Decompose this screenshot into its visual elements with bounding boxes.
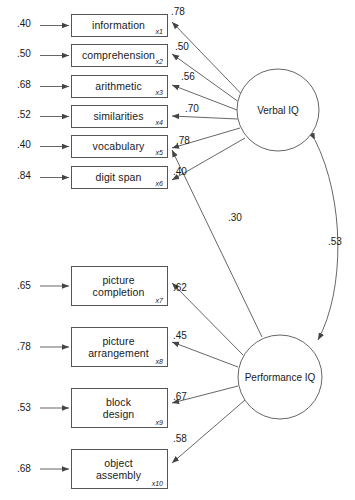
indicator-label-x5: vocabulary <box>93 140 147 153</box>
indicator-box-x3: arithmetic x3 <box>71 75 168 98</box>
indicator-box-x5: vocabulary x5 <box>71 135 168 158</box>
error-value-x6: .84 <box>17 170 31 181</box>
indicator-code-x7: x7 <box>156 297 163 304</box>
loading-value-x2: .50 <box>175 41 189 52</box>
error-value-x9: .53 <box>17 402 31 413</box>
loading-path-x7 <box>172 283 243 355</box>
loading-path-x3 <box>172 85 237 110</box>
indicator-label-x8-line2: arrangement <box>88 347 149 359</box>
loading-value-x10: .58 <box>173 433 187 444</box>
paths-layer <box>0 0 355 500</box>
indicator-label-x9-line2: design <box>103 408 135 420</box>
indicator-box-x1: information x1 <box>71 14 168 37</box>
loading-value-x4: .70 <box>185 103 199 114</box>
indicator-label-x3: arithmetic <box>95 80 144 93</box>
indicator-box-x9: block design x9 <box>71 388 168 428</box>
indicator-label-x1: information <box>92 19 147 32</box>
error-value-x7: .65 <box>17 280 31 291</box>
indicator-code-x5: x5 <box>156 149 163 156</box>
indicator-box-x8: picture arrangement x8 <box>71 327 168 367</box>
indicator-label-x7-line1: picture <box>102 274 134 286</box>
loading-value-x5: .78 <box>176 135 190 146</box>
indicator-label-x4: similarities <box>93 110 145 123</box>
indicator-label-x8: picture arrangement <box>88 335 151 360</box>
indicator-code-x9: x9 <box>156 419 163 426</box>
indicator-code-x8: x8 <box>156 358 163 365</box>
indicator-label-x9: block design <box>103 396 137 421</box>
indicator-label-x2: comprehension <box>82 49 157 62</box>
error-value-x10: .68 <box>17 463 31 474</box>
loading-value-x9: .67 <box>173 391 187 402</box>
indicator-label-x9-line1: block <box>106 396 131 408</box>
loading-value-x3: .56 <box>181 71 195 82</box>
indicator-code-x10: x10 <box>152 480 163 487</box>
indicator-code-x1: x1 <box>156 28 163 35</box>
indicator-label-x6: digit span <box>96 171 144 184</box>
indicator-label-x10-line1: object <box>104 457 133 469</box>
sem-path-diagram: Verbal IQ Performance IQ information x1 … <box>0 0 355 500</box>
factor-label-verbal: Verbal IQ <box>257 105 299 116</box>
error-value-x2: .50 <box>17 48 31 59</box>
loading-path-x8 <box>172 342 238 367</box>
indicator-label-x8-line1: picture <box>102 335 134 347</box>
indicator-box-x7: picture completion x7 <box>71 266 168 306</box>
indicator-box-x2: comprehension x2 <box>71 44 168 67</box>
loading-value-x1: .78 <box>171 6 185 17</box>
cross-loading-value: .30 <box>228 212 242 223</box>
indicator-label-x10: object assembly <box>96 457 143 482</box>
error-value-x8: .78 <box>17 341 31 352</box>
indicator-label-x7: picture completion <box>93 274 147 299</box>
error-value-x3: .68 <box>17 79 31 90</box>
error-value-x4: .52 <box>17 109 31 120</box>
loading-path-x1 <box>172 22 241 93</box>
factor-label-performance: Performance IQ <box>245 372 316 383</box>
loading-path-x10 <box>172 400 245 463</box>
indicator-label-x7-line2: completion <box>93 286 145 298</box>
indicator-box-x6: digit span x6 <box>71 166 168 189</box>
indicator-code-x6: x6 <box>156 180 163 187</box>
loading-path-x4 <box>172 116 238 119</box>
error-value-x5: .40 <box>17 139 31 150</box>
loading-value-x7: .62 <box>173 282 187 293</box>
indicator-box-x4: similarities x4 <box>71 105 168 128</box>
cross-loading-path <box>172 150 262 337</box>
indicator-code-x3: x3 <box>156 89 163 96</box>
factor-correlation-value: .53 <box>328 236 342 247</box>
loading-value-x6: .40 <box>173 166 187 177</box>
indicator-label-x10-line2: assembly <box>96 469 141 481</box>
loading-value-x8: .45 <box>173 330 187 341</box>
error-value-x1: .40 <box>17 18 31 29</box>
indicator-code-x2: x2 <box>156 58 163 65</box>
indicator-code-x4: x4 <box>156 119 163 126</box>
indicator-box-x10: object assembly x10 <box>71 449 168 489</box>
